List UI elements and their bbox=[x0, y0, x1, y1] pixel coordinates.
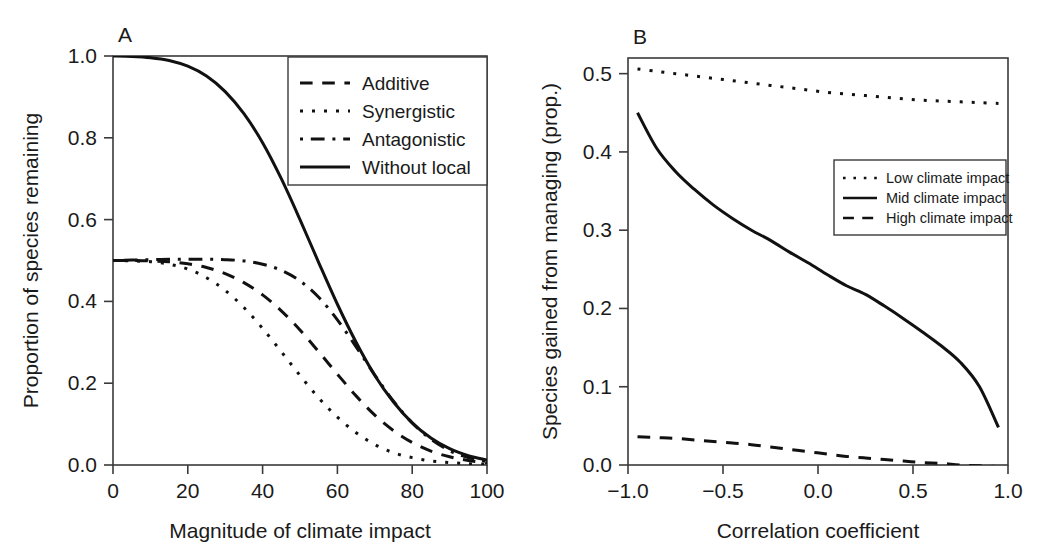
x-axis-title-A: Magnitude of climate impact bbox=[169, 519, 431, 542]
curve-A-synergistic bbox=[113, 261, 487, 465]
x-tick-label-B-2: 0.0 bbox=[803, 479, 832, 502]
legend-label-A-3: Without local bbox=[362, 157, 471, 178]
y-axis-title-B: Species gained from managing (prop.) bbox=[538, 83, 561, 440]
plot-frame-B bbox=[628, 58, 1008, 465]
legend-label-A-2: Antagonistic bbox=[362, 129, 466, 150]
x-tick-label-A-4: 80 bbox=[401, 479, 424, 502]
x-tick-label-A-5: 100 bbox=[469, 479, 504, 502]
y-tick-label-B-0: 0.0 bbox=[583, 453, 612, 476]
series-group-B bbox=[638, 69, 999, 467]
curve-A-additive bbox=[113, 260, 487, 462]
legend-A: AdditiveSynergisticAntagonisticWithout l… bbox=[288, 57, 487, 185]
y-tick-label-B-5: 0.5 bbox=[583, 62, 612, 85]
legend-label-A-0: Additive bbox=[362, 73, 430, 94]
panel-a: A0204060801000.00.20.40.60.81.0Magnitude… bbox=[0, 0, 527, 559]
x-tick-label-A-1: 20 bbox=[176, 479, 199, 502]
y-tick-label-B-1: 0.1 bbox=[583, 375, 612, 398]
legend-label-B-0: Low climate impact bbox=[886, 170, 1009, 186]
x-axis-title-B: Correlation coefficient bbox=[717, 519, 920, 542]
y-tick-label-A-5: 1.0 bbox=[68, 44, 97, 67]
x-tick-label-A-2: 40 bbox=[251, 479, 274, 502]
y-tick-label-A-3: 0.6 bbox=[68, 208, 97, 231]
y-tick-label-B-4: 0.4 bbox=[583, 140, 613, 163]
curve-B-low-climate-impact bbox=[638, 69, 999, 103]
curve-B-high-climate-impact bbox=[638, 437, 999, 467]
y-axis-title-A: Proportion of species remaining bbox=[19, 113, 42, 408]
y-tick-label-B-2: 0.2 bbox=[583, 296, 612, 319]
panel-a-chart: A0204060801000.00.20.40.60.81.0Magnitude… bbox=[0, 0, 527, 559]
curve-A-antagonistic bbox=[113, 259, 487, 461]
x-tick-label-A-3: 60 bbox=[326, 479, 349, 502]
panel-letter-A: A bbox=[118, 23, 132, 46]
x-tick-label-A-0: 0 bbox=[107, 479, 119, 502]
y-tick-label-A-0: 0.0 bbox=[68, 453, 97, 476]
panel-letter-B: B bbox=[633, 25, 647, 48]
panel-b: B−1.0−0.50.00.51.00.00.10.20.30.40.5Corr… bbox=[527, 0, 1054, 559]
x-tick-label-B-4: 1.0 bbox=[993, 479, 1022, 502]
y-tick-label-B-3: 0.3 bbox=[583, 218, 612, 241]
x-tick-label-B-3: 0.5 bbox=[898, 479, 927, 502]
y-tick-label-A-4: 0.8 bbox=[68, 126, 97, 149]
figure-root: A0204060801000.00.20.40.60.81.0Magnitude… bbox=[0, 0, 1054, 559]
y-tick-label-A-2: 0.4 bbox=[68, 289, 98, 312]
x-tick-label-B-1: −0.5 bbox=[702, 479, 743, 502]
x-tick-label-B-0: −1.0 bbox=[607, 479, 648, 502]
legend-B: Low climate impactMid climate impactHigh… bbox=[834, 160, 1013, 235]
legend-label-A-1: Synergistic bbox=[362, 101, 455, 122]
legend-label-B-2: High climate impact bbox=[886, 210, 1013, 226]
panel-b-chart: B−1.0−0.50.00.51.00.00.10.20.30.40.5Corr… bbox=[527, 0, 1054, 559]
legend-label-B-1: Mid climate impact bbox=[886, 190, 1006, 206]
y-tick-label-A-1: 0.2 bbox=[68, 371, 97, 394]
